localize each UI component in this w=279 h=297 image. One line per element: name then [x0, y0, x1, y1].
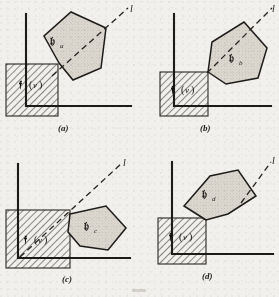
- panel-b: 𝔥 b 𝔣 ( v ) l (b): [140, 0, 279, 148]
- polygon-label-a: 𝔥: [49, 35, 55, 47]
- polygon-d: [184, 170, 256, 220]
- region-label-d-var: v: [183, 232, 187, 242]
- line-label-a: l: [130, 3, 133, 14]
- region-label-d: 𝔣: [169, 231, 172, 242]
- figure-root: 𝔥 a 𝔣 ( v ) l (a): [0, 0, 279, 297]
- polygon-subscript-b: b: [239, 59, 243, 67]
- panel-d: 𝔥 d 𝔣 ( v ) l (d): [140, 148, 279, 296]
- polygon-subscript-a: a: [60, 42, 64, 50]
- panel-caption-d: (d): [202, 271, 213, 281]
- panel-c: 𝔥 c 𝔣 ( v ) l (c): [0, 148, 139, 296]
- line-label-b: l: [272, 3, 275, 14]
- region-label-c: 𝔣: [24, 234, 27, 245]
- region-label-b-var: v: [185, 85, 189, 95]
- polygon-label-b: 𝔥: [228, 52, 234, 64]
- panel-caption-c: (c): [62, 274, 72, 284]
- region-label-c-var: v: [38, 235, 42, 245]
- region-label-c-close: ): [44, 234, 47, 246]
- scan-artifact: [132, 289, 146, 292]
- region-label-a-close: ): [39, 79, 42, 91]
- region-label-a: 𝔣: [19, 79, 22, 90]
- polygon-label-d: 𝔥: [201, 188, 207, 200]
- panel-a: 𝔥 a 𝔣 ( v ) l (a): [0, 0, 139, 148]
- line-label-d: l: [272, 155, 275, 166]
- polygon-label-c: 𝔥: [83, 220, 89, 232]
- region-label-a-var: v: [33, 80, 37, 90]
- polygon-b: [208, 22, 267, 84]
- panel-caption-b: (b): [200, 123, 211, 133]
- region-label-b-close: ): [191, 84, 194, 96]
- region-label-d-close: ): [189, 231, 192, 243]
- polygon-subscript-d: d: [212, 195, 216, 203]
- line-label-c: l: [123, 157, 126, 168]
- region-label-b: 𝔣: [171, 84, 174, 95]
- panel-caption-a: (a): [58, 123, 69, 133]
- hatched-region-a: [6, 64, 58, 116]
